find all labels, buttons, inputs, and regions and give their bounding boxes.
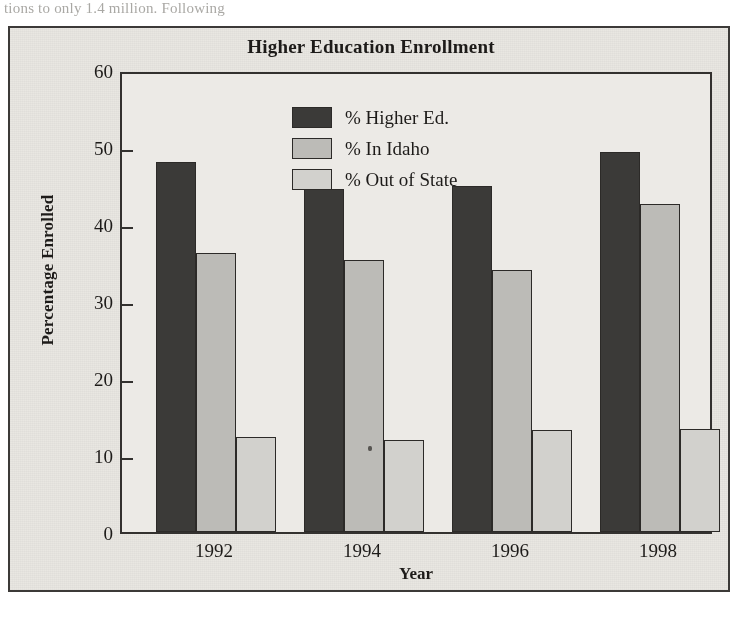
x-axis-title: Year [120, 564, 712, 584]
chart-title: Higher Education Enrollment [10, 36, 732, 58]
bar-1992-series-0 [156, 162, 196, 532]
bar-1994-series-0 [304, 189, 344, 532]
legend-swatch-icon [292, 107, 332, 128]
legend-item-2: % Out of State [292, 164, 457, 195]
bar-1994-series-2 [384, 440, 424, 532]
bar-1994-series-1 [344, 260, 384, 532]
chart-legend: % Higher Ed.% In Idaho% Out of State [292, 102, 457, 195]
bar-1992-series-2 [236, 437, 276, 532]
y-tick-label: 30 [94, 292, 113, 314]
bar-1998-series-1 [640, 204, 680, 532]
legend-swatch-icon [292, 138, 332, 159]
x-axis-label-1994: 1994 [343, 540, 381, 562]
bar-1998-series-0 [600, 152, 640, 532]
y-tick-label: 20 [94, 369, 113, 391]
bar-1996-series-1 [492, 270, 532, 532]
figure-frame: Higher Education Enrollment Percentage E… [8, 26, 730, 592]
y-tick-label: 50 [94, 138, 113, 160]
legend-label: % Higher Ed. [345, 107, 449, 129]
bar-1998-series-2 [680, 429, 720, 532]
y-tick-label: 40 [94, 215, 113, 237]
x-axis-label-1996: 1996 [491, 540, 529, 562]
legend-item-0: % Higher Ed. [292, 102, 457, 133]
x-axis-label-1992: 1992 [195, 540, 233, 562]
page-bleed-text: tions to only 1.4 million. Following [0, 0, 749, 22]
legend-item-1: % In Idaho [292, 133, 457, 164]
legend-swatch-icon [292, 169, 332, 190]
bar-1996-series-2 [532, 430, 572, 532]
x-axis-label-1998: 1998 [639, 540, 677, 562]
y-tick-label: 10 [94, 446, 113, 468]
legend-label: % In Idaho [345, 138, 429, 160]
legend-label: % Out of State [345, 169, 457, 191]
scan-speck [368, 446, 372, 451]
plot-area: 0102030405060 % Higher Ed.% In Idaho% Ou… [120, 72, 712, 534]
y-tick-label: 60 [94, 61, 113, 83]
bar-1992-series-1 [196, 253, 236, 532]
y-axis-title: Percentage Enrolled [38, 170, 58, 370]
y-tick-label: 0 [104, 523, 114, 545]
bar-1996-series-0 [452, 186, 492, 533]
